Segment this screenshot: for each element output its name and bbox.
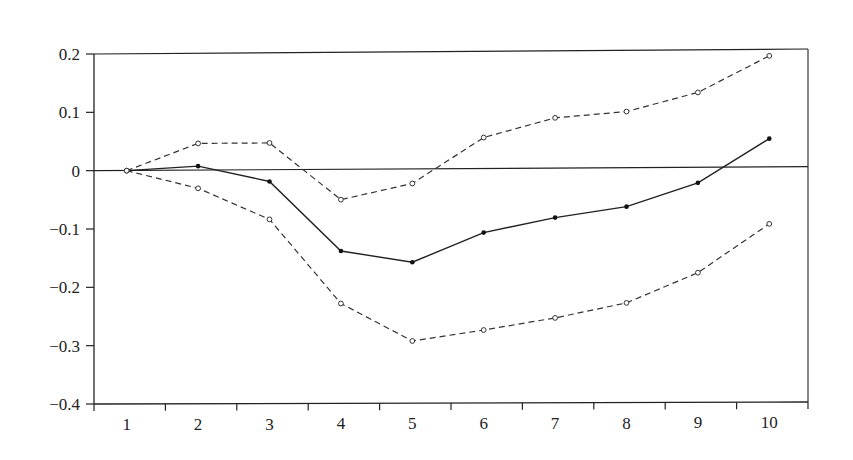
response-marker	[553, 215, 558, 220]
y-tick-label: 0	[72, 162, 81, 181]
x-tick-label: 5	[408, 414, 417, 433]
x-tick-label: 4	[337, 414, 346, 433]
x-tick-label: 10	[761, 413, 778, 432]
response-marker	[410, 260, 415, 265]
x-tick-label: 6	[479, 414, 488, 433]
lower-band-marker	[410, 339, 415, 344]
x-tick-label: 9	[694, 413, 703, 432]
impulse-response-chart: 0.20.10−0.1−0.2−0.3−0.412345678910	[0, 0, 853, 460]
lower-band-marker	[553, 316, 558, 321]
upper-band-marker	[267, 141, 272, 146]
lower-band-marker	[196, 186, 201, 191]
y-tick-label: −0.2	[49, 278, 80, 297]
response-marker	[696, 181, 701, 186]
top-frame-line	[94, 49, 808, 54]
y-tick-label: −0.1	[49, 220, 80, 239]
upper-band-marker	[410, 181, 415, 186]
x-tick-label: 8	[622, 414, 631, 433]
upper-band-marker	[553, 115, 558, 120]
lower-band-marker	[339, 301, 344, 306]
response-marker	[267, 179, 272, 184]
data-series	[124, 53, 771, 343]
upper-band-line	[127, 56, 770, 200]
y-tick-label: −0.3	[49, 337, 80, 356]
upper-band-marker	[696, 90, 701, 95]
lower-band-marker	[124, 168, 129, 173]
lower-band-marker	[767, 221, 772, 226]
y-tick-label: 0.1	[59, 103, 80, 122]
lower-band-marker	[267, 217, 272, 222]
y-tick-label: −0.4	[49, 395, 80, 414]
response-marker	[624, 204, 629, 209]
response-marker	[481, 230, 486, 235]
axis-ticks: 0.20.10−0.1−0.2−0.3−0.412345678910	[49, 45, 808, 434]
lower-band-marker	[696, 270, 701, 275]
upper-band-marker	[767, 53, 772, 58]
x-tick-label: 3	[265, 415, 274, 434]
response-marker	[196, 164, 201, 169]
upper-band-marker	[196, 141, 201, 146]
y-tick-label: 0.2	[59, 45, 80, 64]
lower-band-marker	[624, 300, 629, 305]
lower-band-line	[127, 171, 770, 341]
upper-band-marker	[481, 135, 486, 140]
response-line	[127, 139, 770, 263]
upper-band-marker	[624, 109, 629, 114]
x-tick-label: 2	[194, 415, 203, 434]
lower-band-marker	[481, 328, 486, 333]
x-tick-label: 1	[122, 415, 131, 434]
axes	[94, 49, 808, 404]
chart-canvas: 0.20.10−0.1−0.2−0.3−0.412345678910	[0, 0, 853, 460]
response-marker	[767, 136, 772, 141]
x-tick-label: 7	[551, 414, 560, 433]
upper-band-marker	[339, 197, 344, 202]
response-marker	[339, 249, 344, 254]
